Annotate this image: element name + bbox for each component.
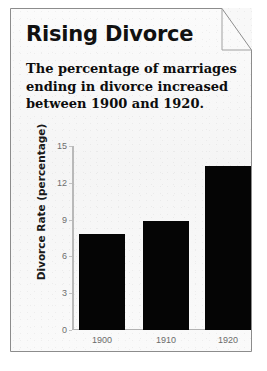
y-tick-label: 3 (62, 288, 67, 298)
x-tick-label: 1920 (205, 335, 251, 345)
y-tick-label: 6 (62, 251, 67, 261)
subtitle-text: The percentage of marriages ending in di… (26, 60, 236, 113)
page-title: Rising Divorce (26, 22, 193, 46)
y-tick-label: 9 (62, 215, 67, 225)
y-tick-mark (69, 330, 72, 331)
y-axis-label: Divorce Rate (percentage) (35, 117, 47, 287)
plot-area: 03691215 190019101920 (72, 146, 240, 330)
subtitle-line-1: The percentage of marriages (26, 60, 236, 78)
bar-series: 190019101920 (74, 146, 240, 330)
y-tick-label: 12 (57, 178, 67, 188)
screenshot-root: Rising Divorce The percentage of marriag… (0, 0, 267, 371)
y-tick-mark (69, 293, 72, 294)
subtitle-line-3: between 1900 and 1920. (26, 95, 236, 113)
y-tick-mark (69, 220, 72, 221)
x-tick-label: 1900 (79, 335, 125, 345)
y-tick-label: 15 (57, 141, 67, 151)
y-tick-mark (69, 146, 72, 147)
subtitle-line-2: ending in divorce increased (26, 78, 236, 96)
bar-chart: Divorce Rate (percentage) 03691215 19001… (18, 128, 244, 344)
x-tick-label: 1910 (143, 335, 189, 345)
bar-1920: 1920 (205, 166, 251, 330)
y-tick-label: 0 (62, 325, 67, 335)
bar-1900: 1900 (79, 234, 125, 330)
bar-1910: 1910 (143, 221, 189, 330)
info-card: Rising Divorce The percentage of marriag… (10, 8, 252, 352)
y-tick-mark (69, 256, 72, 257)
y-tick-mark (69, 183, 72, 184)
